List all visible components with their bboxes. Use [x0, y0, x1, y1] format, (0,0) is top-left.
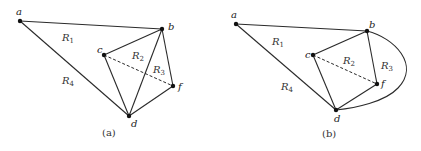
vertex-label-a: a: [16, 6, 22, 17]
region-label-R4: R4: [61, 75, 75, 88]
region-label-R1: R1: [61, 32, 74, 45]
edge-ad: [20, 21, 129, 116]
vertex-label-c: c: [305, 49, 311, 60]
vertex-label-f: f: [177, 81, 184, 92]
vertex-c: [311, 53, 315, 57]
region-label-R2: R2: [131, 50, 144, 63]
vertex-f: [171, 84, 175, 88]
vertex-label-d: d: [131, 118, 137, 129]
edge-bc: [313, 31, 367, 55]
edge-ab: [20, 21, 162, 29]
vertex-a: [18, 19, 22, 23]
region-label-R4: R4: [280, 81, 294, 94]
vertex-label-b: b: [369, 19, 375, 30]
vertex-b: [160, 27, 164, 31]
edge-bf: [367, 31, 377, 84]
edge-cd: [313, 55, 336, 110]
vertex-d: [334, 108, 338, 112]
vertex-label-c: c: [97, 44, 103, 55]
edge-ad: [236, 24, 336, 110]
vertex-label-d: d: [334, 113, 340, 124]
edge-ab: [236, 24, 367, 31]
vertex-label-b: b: [168, 21, 174, 32]
region-label-R3: R3: [152, 64, 165, 77]
vertex-f: [375, 82, 379, 86]
edge-bf: [162, 29, 173, 86]
panel-caption-a: (a): [102, 127, 116, 138]
planar-graph-figure: abcfdR1R2R3R4(a)abcfdR1R2R3R4(b): [0, 0, 421, 151]
panel-caption-b: (b): [322, 128, 336, 139]
vertex-label-f: f: [380, 78, 387, 89]
vertex-a: [234, 22, 238, 26]
region-label-R2: R2: [342, 55, 355, 68]
region-label-R3: R3: [380, 60, 393, 73]
graph-panel-b: abcfdR1R2R3R4(b): [231, 9, 406, 139]
region-label-R1: R1: [271, 36, 284, 49]
vertex-label-a: a: [231, 9, 237, 20]
edge-df: [336, 84, 377, 110]
edge-df: [129, 86, 173, 116]
graph-panel-a: abcfdR1R2R3R4(a): [16, 6, 184, 138]
edge-cd: [104, 55, 129, 116]
